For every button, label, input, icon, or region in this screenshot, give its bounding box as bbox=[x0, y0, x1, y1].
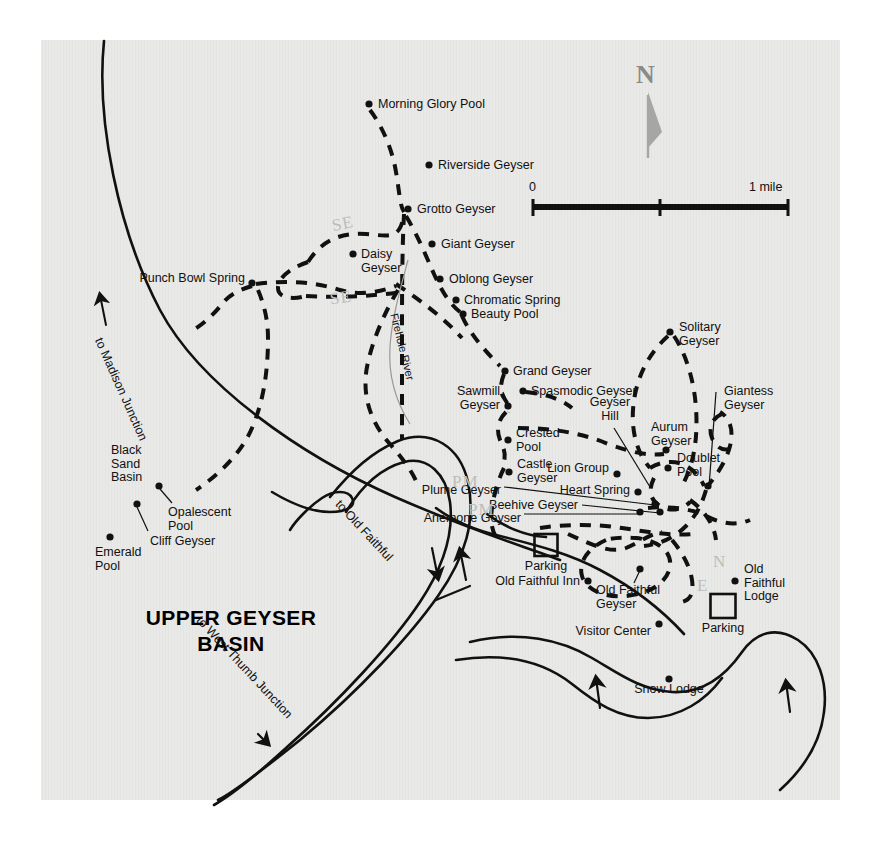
map-title-line1: UPPER GEYSER bbox=[146, 605, 317, 631]
feature-label-cliff-geyser: Cliff Geyser bbox=[150, 535, 215, 549]
feature-dot-oblong-geyser bbox=[436, 275, 443, 282]
pencil-pm-lower: PM bbox=[468, 500, 495, 520]
scale-zero-label: 0 bbox=[529, 180, 536, 194]
feature-dot-beauty-pool bbox=[459, 310, 466, 317]
feature-label-solitary-geyser: Solitary Geyser bbox=[679, 321, 721, 348]
parking-label-parking-south: Parking bbox=[702, 622, 744, 636]
feature-label-doublet-pool: Doublet Pool bbox=[677, 452, 720, 479]
feature-label-oblong-geyser: Oblong Geyser bbox=[449, 273, 533, 287]
feature-label-sawmill-geyser: Sawmill Geyser bbox=[457, 385, 500, 412]
feature-label-spasmodic-geyser: Spasmodic Geyser bbox=[531, 385, 637, 399]
feature-label-old-faithful-geyser: Old Faithful Geyser bbox=[596, 584, 660, 611]
pencil-e-right: E bbox=[697, 576, 708, 596]
feature-label-grotto-geyser: Grotto Geyser bbox=[417, 203, 496, 217]
feature-dot-castle-geyser bbox=[505, 468, 512, 475]
parking-label-parking-north: Parking bbox=[525, 560, 567, 574]
feature-dot-grotto-geyser bbox=[404, 205, 411, 212]
feature-dot-punch-bowl-spring bbox=[248, 279, 255, 286]
feature-label-chromatic-spring: Chromatic Spring bbox=[464, 294, 561, 308]
scale-max-label: 1 mile bbox=[749, 180, 782, 194]
feature-label-emerald-pool: Emerald Pool bbox=[95, 546, 142, 573]
feature-label-lion-group: Lion Group bbox=[547, 462, 609, 476]
feature-dot-cliff-geyser bbox=[133, 500, 140, 507]
north-arrow-label: N bbox=[636, 60, 655, 90]
feature-label-old-faithful-inn: Old Faithful Inn bbox=[495, 575, 580, 589]
feature-label-snow-lodge: Snow Lodge bbox=[634, 683, 704, 697]
feature-dot-anemone-geyser bbox=[636, 508, 643, 515]
feature-label-opalescent-pool: Opalescent Pool bbox=[168, 506, 231, 533]
feature-dot-giant-geyser bbox=[428, 240, 435, 247]
feature-dot-visitor-center bbox=[655, 620, 662, 627]
feature-label-old-faithful-lodge: Old Faithful Lodge bbox=[744, 563, 785, 604]
area-label-black-sand-basin: Black Sand Basin bbox=[111, 444, 142, 485]
feature-dot-heart-spring bbox=[634, 488, 641, 495]
feature-dot-daisy-geyser bbox=[349, 250, 356, 257]
feature-label-punch-bowl-spring: Punch Bowl Spring bbox=[139, 272, 245, 286]
feature-dot-crested-pool bbox=[504, 436, 511, 443]
feature-label-crested-pool: Crested Pool bbox=[516, 427, 560, 454]
feature-dot-old-faithful-geyser bbox=[636, 565, 643, 572]
feature-dot-opalescent-pool bbox=[155, 482, 162, 489]
pencil-se-lower: SE bbox=[329, 287, 353, 310]
feature-label-heart-spring: Heart Spring bbox=[560, 484, 630, 498]
feature-dot-solitary-geyser bbox=[666, 328, 673, 335]
pencil-pm-upper: PM bbox=[452, 472, 479, 492]
feature-dot-grand-geyser bbox=[501, 367, 508, 374]
feature-dot-sawmill-geyser bbox=[504, 402, 511, 409]
feature-dot-giantess-geyser bbox=[704, 482, 711, 489]
feature-dot-old-faithful-lodge bbox=[731, 577, 738, 584]
feature-label-riverside-geyser: Riverside Geyser bbox=[438, 159, 534, 173]
feature-dot-old-faithful-inn bbox=[584, 577, 591, 584]
feature-dot-emerald-pool bbox=[106, 533, 113, 540]
feature-label-giantess-geyser: Giantess Geyser bbox=[724, 385, 773, 412]
map-paper bbox=[41, 40, 840, 800]
feature-label-giant-geyser: Giant Geyser bbox=[441, 238, 515, 252]
area-label-geyser-hill: Geyser Hill bbox=[590, 396, 630, 423]
feature-dot-riverside-geyser bbox=[425, 161, 432, 168]
feature-label-grand-geyser: Grand Geyser bbox=[513, 365, 592, 379]
pencil-n-right: N bbox=[713, 552, 726, 572]
feature-dot-beehive-geyser bbox=[656, 508, 663, 515]
feature-dot-lion-group bbox=[613, 470, 620, 477]
feature-dot-chromatic-spring bbox=[452, 296, 459, 303]
feature-dot-doublet-pool bbox=[664, 464, 671, 471]
feature-label-beauty-pool: Beauty Pool bbox=[471, 308, 538, 322]
feature-label-aurum-geyser: Aurum Geyser bbox=[651, 421, 691, 448]
feature-dot-spasmodic-geyser bbox=[519, 387, 526, 394]
feature-dot-plume-geyser bbox=[651, 500, 658, 507]
feature-label-visitor-center: Visitor Center bbox=[576, 625, 652, 639]
feature-label-morning-glory-pool: Morning Glory Pool bbox=[378, 98, 485, 112]
upper-geyser-basin-map: N 0 1 mile UPPER GEYSER BASIN to Madison… bbox=[0, 0, 881, 842]
feature-label-daisy-geyser: Daisy Geyser bbox=[361, 248, 401, 275]
feature-dot-morning-glory-pool bbox=[365, 100, 372, 107]
